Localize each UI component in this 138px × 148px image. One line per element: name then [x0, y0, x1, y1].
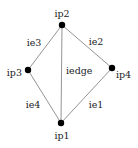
edge-label-ie1: ie1	[89, 99, 104, 110]
edge-ie1	[61, 68, 112, 123]
node-ip3	[25, 67, 31, 73]
graph-diagram: ip2 ip3 ip4 ip1 ie3 ie2 iedge ie4 ie1	[0, 0, 138, 148]
node-ip2	[59, 22, 65, 28]
edge-label-ie4: ie4	[26, 99, 41, 110]
edge-iedge	[61, 25, 62, 123]
node-label-ip1: ip1	[54, 130, 69, 141]
node-label-ip3: ip3	[7, 67, 22, 78]
edge-label-ie3: ie3	[27, 37, 42, 48]
edge-label-ie2: ie2	[89, 36, 104, 47]
node-ip1	[58, 120, 64, 126]
edge-ie4	[28, 70, 61, 123]
edge-label-iedge: iedge	[66, 65, 93, 76]
node-ip4	[109, 65, 115, 71]
node-label-ip4: ip4	[116, 69, 131, 80]
node-label-ip2: ip2	[54, 8, 69, 19]
edge-ie2	[62, 25, 112, 68]
